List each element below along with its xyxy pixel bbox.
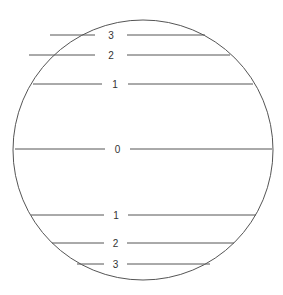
zone-diagram: 3210123 xyxy=(0,0,283,295)
zone-label: 1 xyxy=(113,210,119,221)
zone-label: 3 xyxy=(113,259,119,270)
zone-line-3: 0 xyxy=(15,144,272,155)
zone-label: 2 xyxy=(113,238,119,249)
zone-label: 2 xyxy=(108,50,114,61)
zone-label: 3 xyxy=(108,30,114,41)
zone-line-5: 2 xyxy=(52,238,234,249)
zone-line-0: 3 xyxy=(50,30,205,41)
zone-label: 0 xyxy=(115,144,121,155)
zone-line-6: 3 xyxy=(77,259,210,270)
zone-label: 1 xyxy=(112,79,118,90)
zone-line-4: 1 xyxy=(31,210,256,221)
circle-outline xyxy=(13,20,273,280)
zone-line-2: 1 xyxy=(33,79,253,90)
